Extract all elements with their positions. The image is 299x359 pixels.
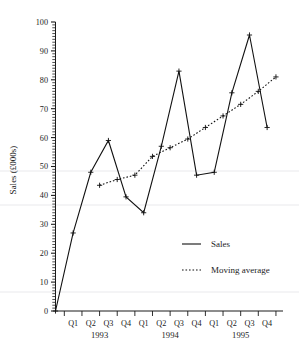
y-tick-label: 10 [40, 278, 48, 287]
legend-label-moving-average: Moving average [211, 265, 270, 275]
y-tick-label: 90 [40, 47, 48, 56]
y-tick-label: 70 [40, 105, 48, 114]
x-tick-label: Q1 [139, 319, 149, 328]
x-year-label: 1993 [91, 330, 108, 340]
x-axis [56, 311, 284, 316]
legend: Sales Moving average [182, 239, 270, 275]
y-tick-label: 0 [44, 307, 48, 316]
x-tick-label: Q3 [174, 319, 184, 328]
x-tick-label: Q2 [156, 319, 166, 328]
y-axis-title: Sales (£000s) [8, 146, 18, 195]
x-tick-label: Q2 [86, 319, 96, 328]
x-tick-label: Q4 [262, 319, 272, 328]
x-tick-label: Q4 [192, 319, 202, 328]
x-tick-label: Q1 [68, 319, 78, 328]
x-tick-label: Q4 [121, 319, 131, 328]
x-tick-label: Q3 [244, 319, 254, 328]
y-tick-label: 60 [40, 134, 48, 143]
y-axis-tick-labels: 0102030405060708090100 [36, 18, 48, 316]
x-year-label: 1994 [162, 330, 180, 340]
y-tick-label: 20 [40, 249, 48, 258]
sales-line-chart: 0102030405060708090100 Sales (£000s) Q1Q… [0, 0, 299, 359]
x-year-label: 1995 [232, 330, 249, 340]
legend-label-sales: Sales [211, 239, 230, 249]
x-axis-tick-labels: Q1Q2Q3Q4Q1Q2Q3Q4Q1Q2Q3Q4 [68, 319, 272, 328]
x-tick-label: Q3 [103, 319, 113, 328]
y-tick-label: 50 [40, 162, 48, 171]
y-tick-label: 30 [40, 220, 48, 229]
moving-average-line [100, 77, 276, 185]
y-axis [51, 22, 56, 311]
y-tick-label: 80 [40, 76, 48, 85]
x-axis-year-labels: 199319941995 [91, 330, 249, 340]
x-tick-label: Q1 [209, 319, 219, 328]
y-tick-label: 40 [40, 191, 48, 200]
chart-canvas: 0102030405060708090100 Sales (£000s) Q1Q… [0, 0, 299, 359]
x-tick-label: Q2 [227, 319, 237, 328]
y-tick-label: 100 [36, 18, 48, 27]
